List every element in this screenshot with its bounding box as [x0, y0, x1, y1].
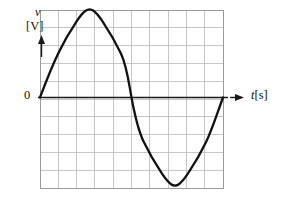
sine-wave-figure: v [V] 0 t[s] — [0, 0, 283, 200]
y-axis-quantity-label: v — [35, 6, 40, 18]
origin-label: 0 — [24, 89, 30, 102]
y-axis-unit-label: [V] — [26, 20, 43, 33]
up-arrow-icon — [38, 35, 45, 44]
x-axis-unit-label: [s] — [254, 88, 267, 102]
x-axis-label: t[s] — [251, 89, 268, 102]
